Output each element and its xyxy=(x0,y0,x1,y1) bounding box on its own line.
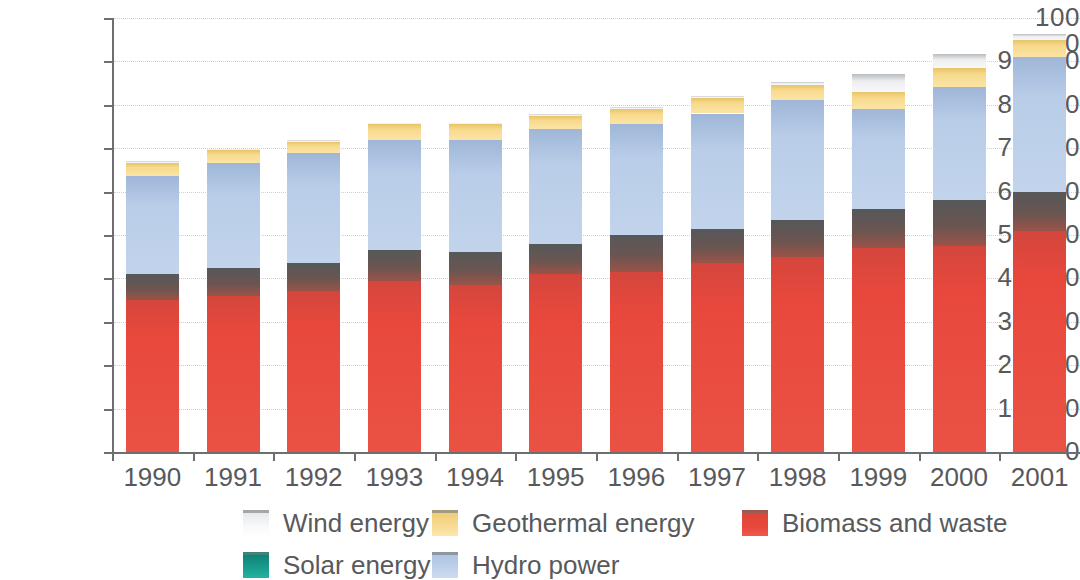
bar-segment-geothermal-energy xyxy=(529,116,582,129)
legend-swatch-icon xyxy=(243,552,269,578)
x-tick-label: 1991 xyxy=(193,462,274,492)
bar-2000 xyxy=(933,54,986,452)
bar-segment-wind-energy xyxy=(933,54,986,68)
bar-segment-biomass-and-waste xyxy=(207,296,260,452)
bar-segment-geothermal-energy xyxy=(933,68,986,88)
legend-swatch-icon xyxy=(432,510,458,536)
x-tick-label: 1997 xyxy=(677,462,758,492)
legend-item-label: Wind energy xyxy=(283,508,429,538)
bar-segment-biomass-and-waste xyxy=(368,281,421,452)
bar-segment-wind-energy xyxy=(1013,34,1066,40)
bar-segment-wind-energy xyxy=(610,107,663,109)
bar-2001 xyxy=(1013,34,1066,452)
legend-swatch-icon xyxy=(243,510,269,536)
bar-segment-geothermal-energy xyxy=(449,124,502,139)
bar-segment-hydro-power xyxy=(852,109,905,209)
x-tick-mark xyxy=(596,452,598,461)
bar-segment-biomass-and-waste xyxy=(126,300,179,452)
bar-segment-solar-energy xyxy=(933,200,986,246)
stacked-bar-chart: 010 00020 00030 00040 00050 00060 00070 … xyxy=(0,0,1080,580)
bar-segment-hydro-power xyxy=(207,163,260,267)
bars-container xyxy=(112,0,1080,452)
x-tick-mark xyxy=(193,452,195,461)
x-tick-mark xyxy=(919,452,921,461)
bar-segment-hydro-power xyxy=(287,153,340,264)
bar-segment-hydro-power xyxy=(933,87,986,200)
bar-1991 xyxy=(207,149,260,452)
bar-segment-solar-energy xyxy=(368,250,421,280)
legend-swatch-icon xyxy=(432,552,458,578)
bar-segment-hydro-power xyxy=(368,140,421,251)
bar-segment-biomass-and-waste xyxy=(1013,231,1066,452)
bar-segment-geothermal-energy xyxy=(610,109,663,124)
bar-segment-geothermal-energy xyxy=(126,163,179,177)
bar-1998 xyxy=(771,82,824,452)
x-tick-label: 1996 xyxy=(596,462,677,492)
bar-segment-biomass-and-waste xyxy=(852,248,905,452)
bar-1993 xyxy=(368,123,421,452)
bar-1990 xyxy=(126,161,179,452)
x-tick-mark xyxy=(273,452,275,461)
bar-segment-hydro-power xyxy=(126,176,179,274)
bar-1997 xyxy=(691,96,744,452)
bar-segment-biomass-and-waste xyxy=(449,285,502,452)
bar-segment-geothermal-energy xyxy=(691,98,744,113)
x-tick-mark xyxy=(757,452,759,461)
bar-segment-biomass-and-waste xyxy=(610,272,663,452)
bar-segment-biomass-and-waste xyxy=(691,263,744,452)
bar-segment-biomass-and-waste xyxy=(771,257,824,452)
legend-item-hydro-power[interactable]: Hydro power xyxy=(432,550,619,580)
x-tick-mark xyxy=(677,452,679,461)
bar-segment-geothermal-energy xyxy=(207,150,260,163)
bar-segment-solar-energy xyxy=(287,263,340,291)
x-tick-mark xyxy=(435,452,437,461)
legend-item-label: Hydro power xyxy=(472,550,619,580)
bar-segment-hydro-power xyxy=(771,100,824,219)
plot-area: 010 00020 00030 00040 00050 00060 00070 … xyxy=(0,0,1080,470)
bar-segment-solar-energy xyxy=(610,235,663,272)
x-tick-label: 1990 xyxy=(112,462,193,492)
bar-segment-solar-energy xyxy=(207,268,260,296)
x-tick-label: 2000 xyxy=(919,462,1000,492)
bar-segment-wind-energy xyxy=(287,140,340,141)
bar-segment-solar-energy xyxy=(126,274,179,300)
x-tick-mark xyxy=(354,452,356,461)
x-tick-label: 1993 xyxy=(354,462,435,492)
bar-segment-wind-energy xyxy=(126,161,179,162)
bar-segment-wind-energy xyxy=(368,123,421,125)
bar-segment-hydro-power xyxy=(1013,57,1066,192)
x-tick-label: 1998 xyxy=(757,462,838,492)
bar-segment-hydro-power xyxy=(610,124,663,235)
bar-1999 xyxy=(852,74,905,452)
bar-segment-geothermal-energy xyxy=(287,142,340,153)
x-tick-label: 1992 xyxy=(273,462,354,492)
bar-1992 xyxy=(287,140,340,452)
bar-segment-wind-energy xyxy=(449,123,502,125)
x-tick-label: 1995 xyxy=(515,462,596,492)
bar-segment-wind-energy xyxy=(771,82,824,85)
legend-item-wind-energy[interactable]: Wind energy xyxy=(243,508,429,538)
bar-1995 xyxy=(529,113,582,452)
legend-item-biomass-and-waste[interactable]: Biomass and waste xyxy=(742,508,1007,538)
x-tick-label: 1999 xyxy=(838,462,919,492)
bar-segment-hydro-power xyxy=(449,140,502,253)
x-tick-mark xyxy=(838,452,840,461)
legend-item-label: Biomass and waste xyxy=(782,508,1007,538)
x-tick-label: 1994 xyxy=(435,462,516,492)
legend-item-solar-energy[interactable]: Solar energy xyxy=(243,550,430,580)
bar-segment-geothermal-energy xyxy=(368,124,421,139)
legend-item-geothermal-energy[interactable]: Geothermal energy xyxy=(432,508,695,538)
bar-segment-biomass-and-waste xyxy=(287,291,340,452)
bar-segment-solar-energy xyxy=(1013,192,1066,231)
bar-segment-hydro-power xyxy=(529,129,582,244)
legend-item-label: Solar energy xyxy=(283,550,430,580)
x-tick-mark xyxy=(112,452,114,461)
bar-segment-wind-energy xyxy=(529,114,582,116)
bar-segment-solar-energy xyxy=(691,229,744,264)
bar-segment-geothermal-energy xyxy=(852,92,905,109)
bar-segment-geothermal-energy xyxy=(771,85,824,100)
bar-segment-biomass-and-waste xyxy=(933,246,986,452)
bar-segment-solar-energy xyxy=(852,209,905,248)
x-tick-label: 2001 xyxy=(999,462,1080,492)
bar-segment-solar-energy xyxy=(771,220,824,257)
